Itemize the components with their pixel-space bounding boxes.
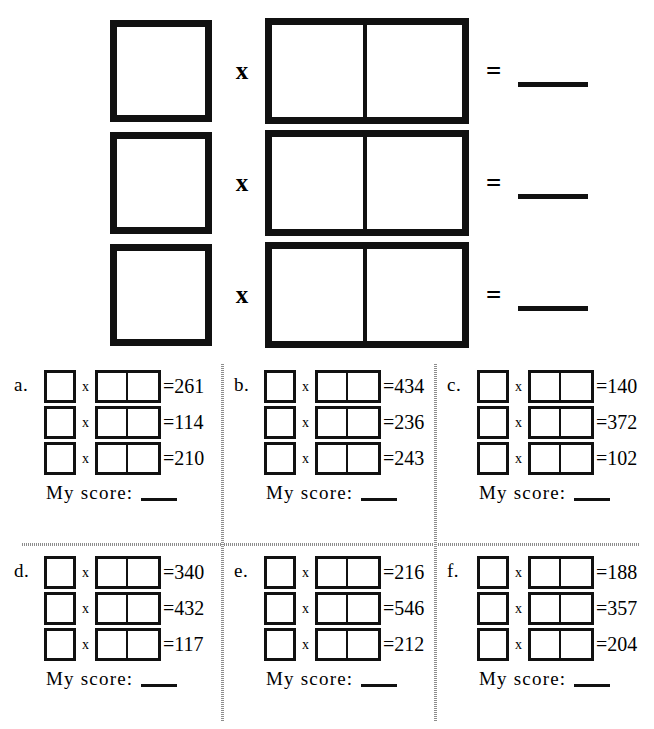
- single-digit-box[interactable]: [477, 628, 509, 661]
- tens-cell[interactable]: [531, 409, 561, 436]
- tens-cell[interactable]: [98, 595, 128, 622]
- single-digit-box[interactable]: [44, 370, 76, 403]
- multiplication-symbol: x: [77, 628, 94, 661]
- tens-cell[interactable]: [531, 445, 561, 472]
- ones-cell[interactable]: [367, 137, 462, 229]
- product-value: =140: [596, 370, 637, 403]
- tens-cell[interactable]: [318, 631, 348, 658]
- ones-cell[interactable]: [561, 373, 591, 400]
- two-digit-box[interactable]: [528, 442, 594, 475]
- single-digit-box[interactable]: [477, 556, 509, 589]
- tens-cell[interactable]: [318, 595, 348, 622]
- tens-cell[interactable]: [98, 559, 128, 586]
- tens-cell[interactable]: [531, 631, 561, 658]
- two-digit-box[interactable]: [315, 592, 381, 625]
- tens-cell[interactable]: [318, 409, 348, 436]
- two-digit-box[interactable]: [315, 370, 381, 403]
- ones-cell[interactable]: [348, 409, 378, 436]
- tens-cell[interactable]: [272, 25, 367, 117]
- two-digit-box[interactable]: [315, 556, 381, 589]
- exercise-panels: a. x =261 x =114 x =210 My score: b.: [0, 358, 654, 729]
- tens-cell[interactable]: [98, 445, 128, 472]
- tens-cell[interactable]: [98, 373, 128, 400]
- score-label: My score:: [479, 668, 566, 690]
- tens-cell[interactable]: [272, 137, 367, 229]
- two-digit-box[interactable]: [528, 556, 594, 589]
- two-digit-box[interactable]: [95, 556, 161, 589]
- ones-cell[interactable]: [348, 595, 378, 622]
- ones-cell[interactable]: [348, 445, 378, 472]
- two-digit-box[interactable]: [315, 442, 381, 475]
- two-digit-box[interactable]: [528, 592, 594, 625]
- score-blank[interactable]: [574, 684, 610, 687]
- single-digit-box[interactable]: [477, 370, 509, 403]
- single-digit-box[interactable]: [264, 592, 296, 625]
- two-digit-box[interactable]: [95, 592, 161, 625]
- single-digit-box[interactable]: [110, 20, 212, 122]
- single-digit-box[interactable]: [264, 406, 296, 439]
- ones-cell[interactable]: [348, 631, 378, 658]
- single-digit-box[interactable]: [264, 556, 296, 589]
- single-digit-box[interactable]: [264, 370, 296, 403]
- ones-cell[interactable]: [128, 631, 158, 658]
- two-digit-box[interactable]: [95, 406, 161, 439]
- two-digit-box[interactable]: [95, 628, 161, 661]
- two-digit-box[interactable]: [265, 130, 469, 236]
- tens-cell[interactable]: [98, 631, 128, 658]
- answer-blank[interactable]: [518, 18, 588, 124]
- example-row: x =: [0, 18, 654, 124]
- ones-cell[interactable]: [367, 249, 462, 341]
- single-digit-box[interactable]: [477, 406, 509, 439]
- single-digit-box[interactable]: [44, 406, 76, 439]
- single-digit-box[interactable]: [44, 442, 76, 475]
- ones-cell[interactable]: [561, 559, 591, 586]
- ones-cell[interactable]: [561, 631, 591, 658]
- tens-cell[interactable]: [318, 373, 348, 400]
- single-digit-box[interactable]: [477, 442, 509, 475]
- tens-cell[interactable]: [531, 373, 561, 400]
- score-blank[interactable]: [361, 498, 397, 501]
- two-digit-box[interactable]: [95, 442, 161, 475]
- single-digit-box[interactable]: [44, 592, 76, 625]
- answer-blank[interactable]: [518, 242, 588, 348]
- two-digit-box[interactable]: [315, 406, 381, 439]
- score-blank[interactable]: [141, 498, 177, 501]
- tens-cell[interactable]: [318, 559, 348, 586]
- score-blank[interactable]: [141, 684, 177, 687]
- single-digit-box[interactable]: [477, 592, 509, 625]
- two-digit-box[interactable]: [528, 370, 594, 403]
- two-digit-box[interactable]: [528, 628, 594, 661]
- ones-cell[interactable]: [561, 445, 591, 472]
- two-digit-box[interactable]: [528, 406, 594, 439]
- problem-row: x =432: [44, 592, 222, 626]
- tens-cell[interactable]: [531, 595, 561, 622]
- two-digit-box[interactable]: [315, 628, 381, 661]
- single-digit-box[interactable]: [44, 556, 76, 589]
- two-digit-box[interactable]: [265, 18, 469, 124]
- ones-cell[interactable]: [128, 445, 158, 472]
- single-digit-box[interactable]: [264, 628, 296, 661]
- two-digit-box[interactable]: [265, 242, 469, 348]
- ones-cell[interactable]: [128, 559, 158, 586]
- single-digit-box[interactable]: [44, 628, 76, 661]
- ones-cell[interactable]: [128, 373, 158, 400]
- tens-cell[interactable]: [318, 445, 348, 472]
- answer-blank[interactable]: [518, 130, 588, 236]
- ones-cell[interactable]: [128, 409, 158, 436]
- ones-cell[interactable]: [348, 559, 378, 586]
- ones-cell[interactable]: [128, 595, 158, 622]
- score-blank[interactable]: [361, 684, 397, 687]
- single-digit-box[interactable]: [110, 132, 212, 234]
- single-digit-box[interactable]: [110, 244, 212, 346]
- score-line: My score:: [46, 482, 177, 504]
- ones-cell[interactable]: [348, 373, 378, 400]
- single-digit-box[interactable]: [264, 442, 296, 475]
- tens-cell[interactable]: [98, 409, 128, 436]
- tens-cell[interactable]: [531, 559, 561, 586]
- score-blank[interactable]: [574, 498, 610, 501]
- two-digit-box[interactable]: [95, 370, 161, 403]
- tens-cell[interactable]: [272, 249, 367, 341]
- ones-cell[interactable]: [561, 409, 591, 436]
- ones-cell[interactable]: [367, 25, 462, 117]
- ones-cell[interactable]: [561, 595, 591, 622]
